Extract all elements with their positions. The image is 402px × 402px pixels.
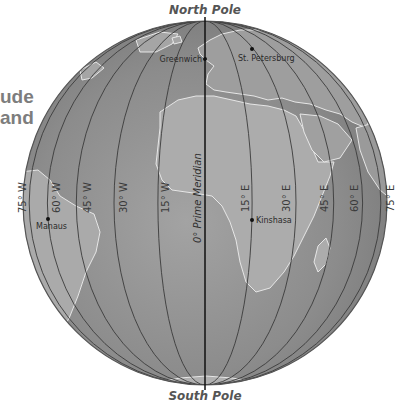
globe: North Pole South Pole 0° Prime Meridian … — [0, 0, 402, 402]
city-label-greenwich: Greenwich — [160, 55, 202, 64]
label-75e: 75° E — [385, 185, 396, 212]
south-pole-label: South Pole — [168, 389, 241, 402]
city-marker — [203, 57, 207, 61]
label-60e: 60° E — [349, 185, 360, 212]
city-label-st-petersburg: St. Petersburg — [238, 54, 295, 63]
label-30w: 30° W — [118, 182, 129, 213]
landmass-iceland — [172, 36, 182, 44]
city-marker — [250, 218, 254, 222]
north-pole-label: North Pole — [169, 3, 241, 17]
label-75w: 75° W — [17, 182, 28, 213]
label-15e: 15° E — [240, 185, 251, 212]
label-45e: 45° E — [319, 185, 330, 212]
city-marker — [250, 47, 254, 51]
prime-meridian-label: 0° Prime Meridian — [192, 153, 203, 243]
label-15w: 15° W — [160, 182, 171, 213]
city-kinshasa: Kinshasa — [250, 216, 292, 225]
globe-map-figure: ude and — [0, 0, 402, 402]
label-30e: 30° E — [281, 185, 292, 212]
label-60w: 60° W — [51, 182, 62, 213]
city-greenwich: Greenwich — [160, 55, 207, 64]
city-marker — [46, 217, 50, 221]
city-label-manaus: Manaus — [36, 222, 67, 231]
city-label-kinshasa: Kinshasa — [256, 216, 292, 225]
label-45w: 45° W — [82, 182, 93, 213]
